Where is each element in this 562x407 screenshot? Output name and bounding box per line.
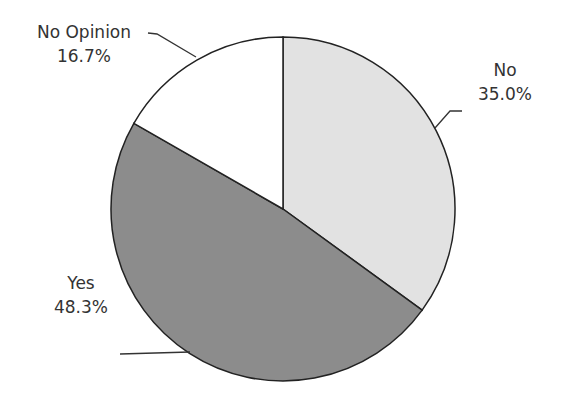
leader-line-noopinion (148, 33, 196, 57)
label-no: No 35.0% (470, 58, 540, 106)
label-no-pct: 35.0% (470, 82, 540, 106)
label-yes-pct: 48.3% (46, 295, 116, 319)
label-no-name: No (470, 58, 540, 82)
label-yes: Yes 48.3% (46, 271, 116, 319)
label-yes-name: Yes (46, 271, 116, 295)
leader-line-yes (120, 352, 190, 354)
label-noopinion-name: No Opinion (20, 20, 148, 44)
label-noopinion-pct: 16.7% (20, 44, 148, 68)
leader-line-no (435, 111, 462, 128)
label-noopinion: No Opinion 16.7% (20, 20, 148, 68)
